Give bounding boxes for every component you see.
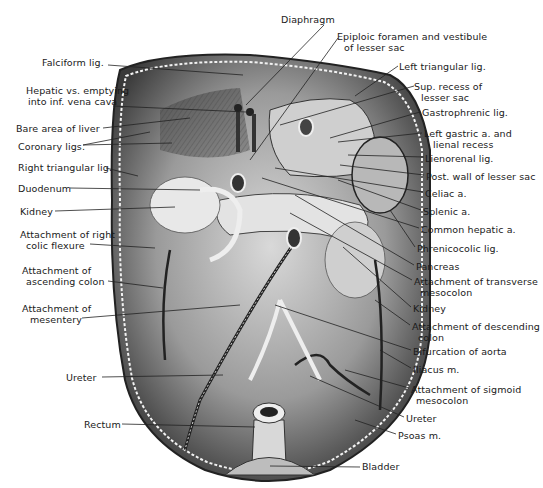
label-ureter-right: Ureter	[406, 413, 437, 424]
label-psoas-m: Psoas m.	[398, 430, 441, 441]
label-falciform-lig: Falciform lig.	[42, 57, 104, 68]
label-bifurcation-of-aorta: Bifurcation of aorta	[413, 346, 507, 357]
label-attachment-descending-line1: Attachment of descending	[412, 321, 540, 332]
label-splenic-a: Splenic a.	[423, 206, 470, 217]
label-phrenicocolic-lig: Phrenicocolic lig.	[417, 243, 499, 254]
label-epiploic-foramen-line1: Epiploic foramen and vestibule	[337, 31, 487, 42]
label-post-wall-lesser-sac: Post. wall of lesser sac	[426, 171, 536, 182]
label-attachment-sigmoid-line2: mesocolon	[416, 395, 468, 406]
label-attachment-descending-line2: colon	[418, 332, 444, 343]
label-celiac-a: Celiac a.	[425, 188, 467, 199]
label-duodenum: Duodenum	[18, 183, 71, 194]
label-left-triangular-lig: Left triangular lig.	[399, 61, 486, 72]
label-attachment-right-colic-line1: Attachment of right	[20, 229, 115, 240]
label-coronary-ligs: Coronary ligs.	[18, 141, 85, 152]
label-diaphragm: Diaphragm	[281, 14, 335, 25]
label-attachment-ascending-colon-line2: ascending colon	[26, 276, 105, 287]
label-kidney-right: Kidney	[20, 206, 53, 217]
label-epiploic-foramen-line2: of lesser sac	[344, 42, 405, 53]
label-hepatic-veins-line1: Hepatic vs. emptying	[26, 85, 129, 96]
label-attachment-mesentery-line1: Attachment of	[22, 303, 91, 314]
label-bare-area-of-liver: Bare area of liver	[16, 123, 100, 134]
label-hepatic-veins-line2: into inf. vena cava	[28, 96, 117, 107]
label-pancreas: Pancreas	[416, 261, 459, 272]
label-attachment-sigmoid-line1: Attachment of sigmoid	[411, 384, 521, 395]
label-sup-recess-line2: lesser sac	[421, 92, 469, 103]
label-right-triangular-lig: Right triangular lig.	[18, 162, 112, 173]
label-left-gastric-line1: Left gastric a. and	[424, 128, 512, 139]
label-attachment-right-colic-line2: colic flexure	[26, 240, 85, 251]
label-attachment-ascending-colon-line1: Attachment of	[22, 265, 91, 276]
label-iliacus-m: Iliacus m.	[413, 364, 459, 375]
label-left-gastric-line2: lienal recess	[433, 139, 493, 150]
right-kidney	[150, 177, 220, 233]
anatomical-figure: Falciform lig. Hepatic vs. emptying into…	[0, 0, 543, 488]
label-kidney-left: Kidney	[413, 303, 446, 314]
label-rectum: Rectum	[84, 419, 121, 430]
label-attachment-transverse-line1: Attachment of transverse	[414, 276, 538, 287]
label-attachment-mesentery-line2: mesentery	[30, 314, 82, 325]
label-attachment-transverse-line2: mesocolon	[420, 287, 472, 298]
label-sup-recess-line1: Sup. recess of	[414, 81, 482, 92]
label-gastrophrenic-lig: Gastrophrenic lig.	[422, 107, 508, 118]
label-common-hepatic-a: Common hepatic a.	[421, 224, 516, 235]
spleen-area	[352, 137, 408, 213]
label-bladder: Bladder	[362, 461, 400, 472]
label-ureter-left: Ureter	[66, 372, 97, 383]
label-lienorenal-lig: Lienorenal lig.	[425, 153, 493, 164]
